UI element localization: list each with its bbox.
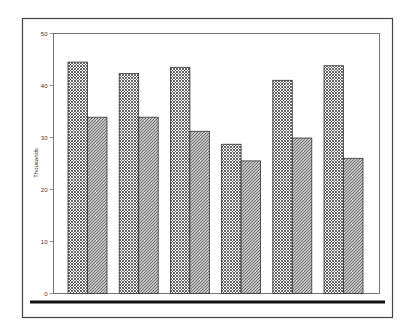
- bar-group: [222, 144, 261, 293]
- bar-diagonal: [139, 117, 159, 293]
- bar-crosshatch: [170, 67, 190, 293]
- bar-crosshatch: [222, 144, 242, 293]
- baseline-rule: [30, 301, 385, 304]
- bar-crosshatch: [273, 80, 293, 293]
- bar-crosshatch: [119, 74, 139, 294]
- bar-crosshatch: [324, 66, 344, 294]
- y-tick-label: 50: [41, 31, 48, 37]
- bar-diagonal: [190, 131, 210, 293]
- y-tick-label: 10: [41, 239, 48, 245]
- bar-diagonal: [292, 138, 312, 293]
- y-tick-label: 30: [41, 135, 48, 141]
- bar-crosshatch: [68, 62, 88, 293]
- y-tick-label: 20: [41, 187, 48, 193]
- bar-diagonal: [241, 161, 261, 294]
- y-tick-label: 40: [41, 83, 48, 89]
- bar-diagonal: [344, 158, 364, 293]
- bar-diagonal: [88, 117, 108, 293]
- y-axis-label: Thousands: [33, 148, 39, 178]
- bar-chart: 01020304050 Thousands: [0, 0, 413, 334]
